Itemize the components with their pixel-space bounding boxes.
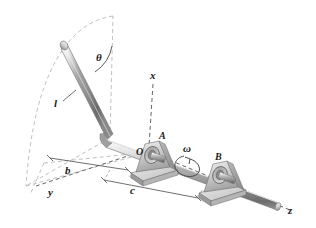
label-point-o: O — [136, 147, 143, 157]
label-theta: θ — [96, 52, 102, 63]
label-axis-x: x — [150, 70, 156, 81]
figure-canvas: θ l x A O ω B b y c z — [0, 0, 316, 228]
dimension-b — [47, 155, 131, 173]
label-length-l: l — [54, 98, 57, 109]
length-leader-line — [63, 90, 76, 101]
label-dimension-b: b — [65, 165, 71, 176]
label-point-a: A — [159, 131, 166, 141]
label-omega: ω — [183, 143, 191, 154]
label-dimension-c: c — [130, 185, 135, 196]
label-point-b: B — [215, 152, 222, 162]
inclined-rod — [59, 40, 113, 147]
rod-sweep-arc — [26, 16, 113, 186]
label-axis-y: y — [48, 187, 53, 198]
label-axis-z: z — [288, 205, 292, 216]
axis-x-line — [149, 84, 153, 146]
